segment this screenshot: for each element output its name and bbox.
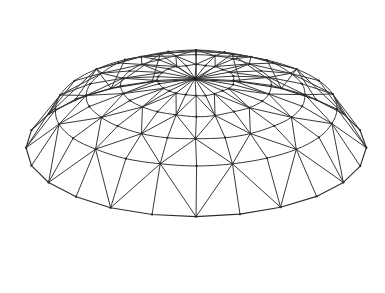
mesh-node (140, 133, 142, 135)
mesh-node (249, 132, 251, 134)
mesh-node (122, 77, 124, 79)
mesh-node (195, 116, 197, 118)
mesh-node (359, 165, 361, 167)
mesh-node (250, 56, 252, 58)
mesh-node (214, 65, 216, 67)
mesh-node (228, 71, 230, 73)
mesh-node (223, 51, 225, 53)
mesh-node (25, 147, 27, 149)
mesh-node (231, 163, 233, 165)
mesh-node (331, 123, 333, 125)
mesh-node (214, 55, 216, 57)
dome-figure: Geodesic dome wireframe Wireframe perspe… (0, 0, 385, 293)
mesh-node (151, 81, 153, 83)
mesh-node (95, 68, 97, 70)
mesh-node (158, 59, 160, 61)
mesh-node (280, 87, 282, 89)
mesh-node (73, 80, 75, 82)
mesh-node (204, 95, 206, 97)
mesh-node (166, 137, 168, 139)
mesh-node (233, 110, 235, 112)
mesh-node (109, 207, 111, 209)
mesh-node (224, 137, 226, 139)
mesh-node (72, 137, 74, 139)
mesh-node (260, 70, 262, 72)
apex-node (193, 77, 197, 81)
mesh-node (248, 63, 250, 65)
mesh-node (167, 68, 169, 70)
mesh-node (261, 100, 263, 102)
mesh-node (228, 87, 230, 89)
mesh-node (232, 83, 234, 85)
mesh-node (75, 98, 77, 100)
mesh-node (151, 213, 153, 215)
mesh-node (110, 87, 112, 89)
mesh-node (279, 206, 281, 208)
mesh-node (222, 69, 224, 71)
mesh-node (162, 87, 164, 89)
mesh-node (157, 76, 159, 78)
mesh-node (141, 106, 143, 108)
mesh-node (175, 55, 177, 57)
mesh-node (167, 51, 169, 53)
mesh-node (75, 196, 77, 198)
mesh-node (48, 113, 50, 115)
mesh-node (195, 94, 197, 96)
mesh-node (129, 99, 131, 101)
mesh-node (232, 58, 234, 60)
mesh-node (248, 107, 250, 109)
mesh-node (336, 108, 338, 110)
mesh-node (185, 65, 187, 67)
mesh-node (129, 70, 131, 72)
mesh-node (117, 62, 119, 64)
mesh-node (100, 116, 102, 118)
mesh-node (195, 63, 197, 65)
mesh-node (59, 94, 61, 96)
mesh-node (331, 93, 333, 95)
mesh-node (232, 79, 234, 81)
mesh-node (204, 65, 206, 67)
mesh-node (194, 138, 196, 140)
mesh-node (159, 53, 161, 55)
mesh-node (239, 213, 241, 215)
mesh-node (94, 148, 96, 150)
mesh-node (161, 71, 163, 73)
mesh-node (30, 165, 32, 167)
mesh-node (195, 51, 197, 53)
mesh-node (159, 163, 161, 165)
mesh-node (175, 114, 177, 116)
mesh-node (290, 116, 292, 118)
mesh-node (30, 129, 32, 131)
mesh-node (301, 83, 303, 85)
mesh-node (266, 59, 268, 61)
mesh-node (239, 81, 241, 83)
mesh-node (168, 90, 170, 92)
mesh-node (140, 56, 142, 58)
mesh-node (304, 94, 306, 96)
mesh-node (221, 90, 223, 92)
mesh-node (158, 83, 160, 85)
mesh-node (195, 53, 197, 55)
mesh-node (272, 62, 274, 64)
mesh-node (116, 125, 118, 127)
mesh-node (195, 165, 197, 167)
mesh-node (268, 76, 270, 78)
mesh-node (318, 136, 320, 138)
mesh-node (119, 85, 121, 87)
mesh-node (342, 181, 344, 183)
mesh-node (156, 111, 158, 113)
mesh-node (195, 216, 197, 218)
dome-wireframe-svg: Geodesic dome wireframe Wireframe perspe… (0, 0, 385, 293)
mesh-node (214, 114, 216, 116)
mesh-node (365, 147, 367, 149)
mesh-node (270, 84, 272, 86)
mesh-node (231, 53, 233, 55)
mesh-node (318, 79, 320, 81)
mesh-node (58, 123, 60, 125)
mesh-node (359, 129, 361, 131)
mesh-node (268, 93, 270, 95)
mesh-node (301, 105, 303, 107)
mesh-node (295, 68, 297, 70)
mesh-node (141, 63, 143, 65)
mesh-node (289, 72, 291, 74)
